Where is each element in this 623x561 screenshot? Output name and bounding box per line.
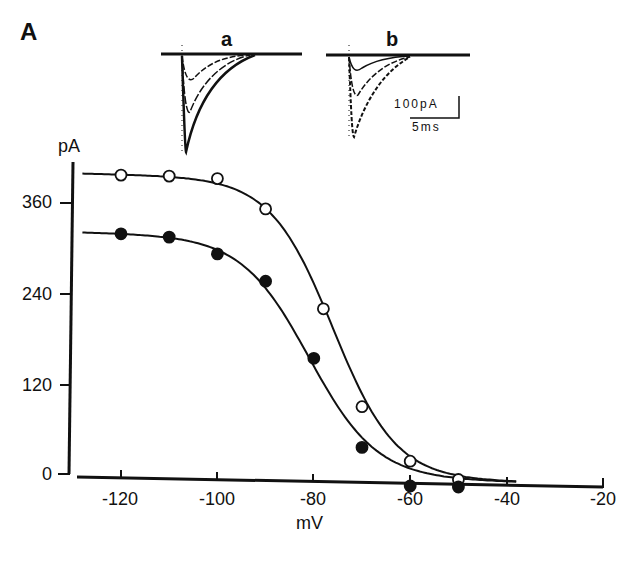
fit-curve-filled	[82, 233, 516, 482]
filled-data-point	[453, 482, 464, 493]
inset-b-traces	[326, 45, 470, 138]
filled-data-point	[212, 248, 223, 259]
filled-data-point	[116, 228, 127, 239]
filled-data-point	[164, 232, 175, 243]
axes	[58, 162, 603, 488]
filled-data-point	[308, 353, 319, 364]
open-data-point	[116, 170, 127, 181]
open-data-point	[405, 456, 416, 467]
open-data-point	[164, 171, 175, 182]
chart-canvas	[0, 0, 623, 561]
data-points	[116, 170, 464, 493]
fit-curve-open	[82, 174, 516, 482]
fit-curves	[82, 174, 516, 482]
filled-data-point	[405, 481, 416, 492]
filled-data-point	[260, 276, 271, 287]
open-data-point	[357, 401, 368, 412]
open-data-point	[212, 173, 223, 184]
inset-a-traces	[161, 45, 302, 155]
open-data-point	[260, 203, 271, 214]
open-data-point	[318, 303, 329, 314]
scale-bar	[410, 96, 459, 118]
filled-data-point	[357, 442, 368, 453]
